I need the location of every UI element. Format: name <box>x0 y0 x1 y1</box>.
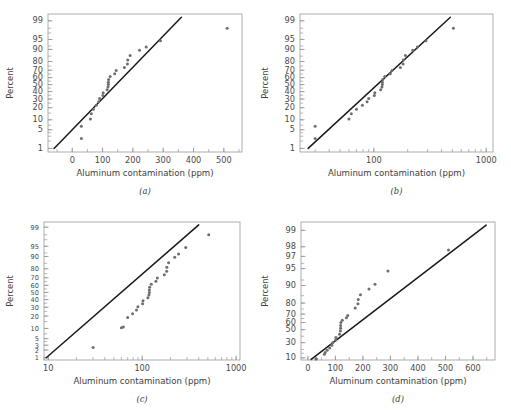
y-tick-label: 10 <box>285 114 295 124</box>
data-point <box>141 302 144 305</box>
data-point <box>331 341 334 344</box>
y-tick-label: 95 <box>33 34 43 44</box>
data-point <box>207 233 210 236</box>
data-point <box>373 94 376 97</box>
data-point <box>328 347 331 350</box>
data-point <box>359 293 362 296</box>
y-tick-label: 30 <box>286 337 296 347</box>
y-tick-label: 5 <box>38 124 43 134</box>
data-point <box>156 277 159 280</box>
x-axis-ticks: 101001000 <box>43 356 246 374</box>
x-tick-label: 200 <box>125 155 141 165</box>
data-point <box>173 256 176 259</box>
y-axis-ticks: 151020304050607080909599 <box>33 15 53 153</box>
panel-caption: (b) <box>391 186 403 196</box>
data-point <box>381 78 384 81</box>
y-tick-label: 10 <box>31 325 39 333</box>
y-tick-label: 70 <box>286 309 296 319</box>
y-tick-label: 1 <box>35 354 39 362</box>
y-tick-label: 99 <box>31 224 39 232</box>
data-point <box>389 72 392 75</box>
y-tick-label: 80 <box>286 298 296 308</box>
data-point <box>136 305 139 308</box>
x-axis-ticks: 0100200300400500600 <box>305 356 486 374</box>
data-point <box>80 137 83 140</box>
panel-a: 1510203040506070809095990100200300400500… <box>0 0 255 208</box>
data-point <box>326 349 329 352</box>
y-tick-label: 80 <box>33 56 43 66</box>
data-point <box>324 351 327 354</box>
x-tick-label: 300 <box>155 155 171 165</box>
y-tick-label: 90 <box>33 44 43 54</box>
x-tick-label: 100 <box>134 363 150 373</box>
probability-plot-figure: 1510203040506070809095990100200300400500… <box>0 0 511 417</box>
data-point <box>373 91 376 94</box>
y-tick-label: 1 <box>290 143 295 153</box>
data-point <box>113 72 116 75</box>
data-points <box>92 233 211 349</box>
data-point <box>361 104 364 107</box>
panel-c-plot: 12351020304050607080909599101001000Alumi… <box>0 208 255 416</box>
data-point <box>154 280 157 283</box>
data-point <box>334 336 337 339</box>
x-tick-label: 400 <box>410 363 426 373</box>
plot-frame <box>300 14 493 152</box>
y-tick-label: 70 <box>33 65 43 75</box>
data-point <box>390 69 393 72</box>
y-tick-label: 5 <box>290 124 295 134</box>
y-tick-label: 1 <box>38 143 43 153</box>
x-tick-label: 100 <box>328 363 344 373</box>
x-axis-ticks: 1001000 <box>315 148 496 166</box>
data-point <box>146 296 149 299</box>
x-tick-label: 0 <box>70 155 75 165</box>
x-tick-label: 500 <box>216 155 232 165</box>
data-point <box>98 97 101 100</box>
data-point <box>374 283 377 286</box>
y-tick-label: 40 <box>31 296 39 304</box>
data-point <box>367 287 370 290</box>
data-point <box>135 309 138 312</box>
data-point <box>315 357 318 360</box>
data-point <box>148 286 151 289</box>
y-tick-label: 20 <box>31 313 39 321</box>
x-axis-label: Aluminum contamination (ppm) <box>73 376 210 386</box>
data-point <box>106 88 109 91</box>
panel-a-plot: 1510203040506070809095990100200300400500… <box>0 0 255 208</box>
data-point <box>126 316 129 319</box>
y-tick-label: 5 <box>35 335 39 343</box>
x-tick-label: 1000 <box>476 155 497 165</box>
data-point <box>347 118 350 121</box>
data-point <box>366 100 369 103</box>
data-point <box>145 45 148 48</box>
x-axis-label: Aluminum contamination (ppm) <box>328 168 465 178</box>
panel-d-plot: 1030506070809095979899010020030040050060… <box>255 208 510 416</box>
x-axis-ticks: 0100200300400500 <box>57 148 239 166</box>
y-tick-label: 10 <box>286 352 296 362</box>
y-tick-label: 60 <box>31 282 39 290</box>
x-tick-label: 100 <box>95 155 111 165</box>
data-point <box>339 324 342 327</box>
data-point <box>126 62 129 65</box>
data-point <box>142 299 145 302</box>
data-point <box>150 283 153 286</box>
y-tick-label: 20 <box>33 102 43 112</box>
data-point <box>356 302 359 305</box>
data-point <box>148 288 151 291</box>
data-point <box>97 100 100 103</box>
data-point <box>339 327 342 330</box>
panel-c: 12351020304050607080909599101001000Alumi… <box>0 208 255 416</box>
y-tick-label: 70 <box>31 274 39 282</box>
data-point <box>177 252 180 255</box>
fitted-reference-line <box>46 225 199 358</box>
data-point <box>314 125 317 128</box>
data-point <box>399 66 402 69</box>
plot-frame <box>44 222 240 360</box>
panel-b-plot: 1510203040506070809095991001000Aluminum … <box>255 0 510 208</box>
data-point <box>102 91 105 94</box>
x-tick-label: 400 <box>186 155 202 165</box>
data-point <box>383 75 386 78</box>
y-tick-label: 99 <box>286 225 296 235</box>
data-point <box>89 118 92 121</box>
plot-frame <box>48 14 242 152</box>
data-point <box>350 112 353 115</box>
